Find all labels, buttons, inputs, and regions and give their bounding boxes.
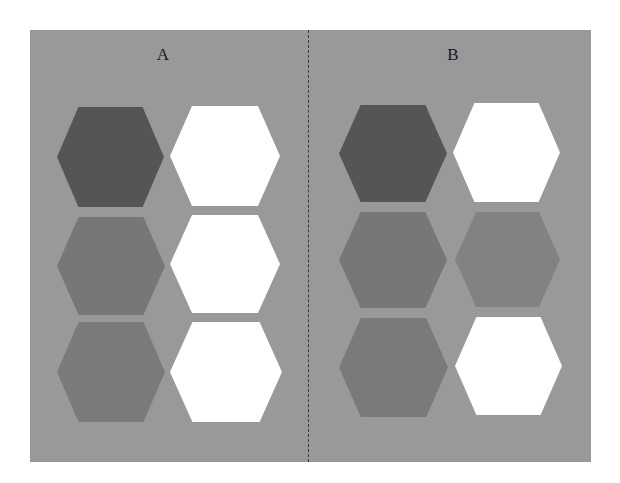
- dashed-divider: [308, 30, 309, 462]
- hexagon-b-r1c2: [453, 103, 560, 202]
- hexagon-b-r3c1: [339, 318, 448, 417]
- hexagon-b-r2c1: [339, 212, 447, 308]
- hexagon-a-r3c2: [170, 322, 282, 422]
- hexagon-a-r2c1: [57, 217, 165, 315]
- hexagon-a-r1c2: [170, 106, 280, 206]
- hexagon-a-r2c2: [170, 215, 280, 313]
- hexagon-a-r1c1: [57, 107, 164, 207]
- panel-label-b: B: [433, 45, 473, 65]
- figure-panel: A B: [30, 30, 591, 462]
- hexagon-b-r1c1: [339, 105, 447, 202]
- hexagon-b-r3c2: [455, 317, 562, 415]
- hexagon-a-r3c1: [57, 322, 165, 422]
- panel-label-a: A: [143, 45, 183, 65]
- hexagon-b-r2c2: [455, 212, 560, 307]
